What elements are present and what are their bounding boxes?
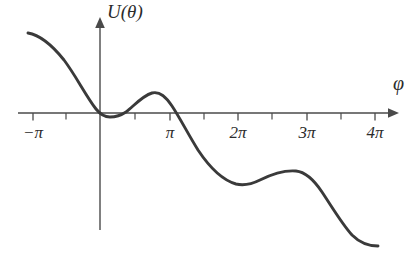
potential-energy-figure: U(θ) φ −π π 2π 3π 4π (0, 0, 420, 258)
tick-label-2pi: 2π (229, 124, 246, 141)
tick-label-pi: π (166, 124, 175, 141)
arrow-up-icon (95, 17, 105, 28)
potential-curve (28, 33, 378, 246)
arrow-right-icon (388, 108, 399, 118)
plot-canvas (0, 0, 420, 258)
y-axis-label: U(θ) (107, 2, 143, 21)
tick-label-minus-pi: −π (23, 124, 43, 141)
tick-label-3pi: 3π (298, 124, 315, 141)
tick-label-4pi: 4π (366, 124, 383, 141)
x-axis-label: φ (393, 73, 404, 93)
